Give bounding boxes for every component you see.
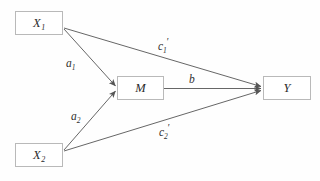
edge-label-c2-prime: c2′ <box>159 127 170 139</box>
node-x2: X2 <box>15 143 63 167</box>
edge-label-c1-prime: c1′ <box>158 41 169 53</box>
edge-label-a1: a1 <box>66 58 76 70</box>
node-m: M <box>117 76 164 100</box>
node-x1-label: X1 <box>33 17 45 30</box>
node-x2-label: X2 <box>33 149 45 162</box>
node-m-label: M <box>135 82 146 95</box>
node-y: Y <box>263 76 311 100</box>
edge-label-b: b <box>189 74 195 86</box>
node-y-label: Y <box>283 82 290 95</box>
node-x1: X1 <box>15 11 63 35</box>
path-diagram: X1 X2 M Y a1 a2 b c1′ c2′ <box>0 0 320 181</box>
edge-label-a2: a2 <box>71 111 81 123</box>
